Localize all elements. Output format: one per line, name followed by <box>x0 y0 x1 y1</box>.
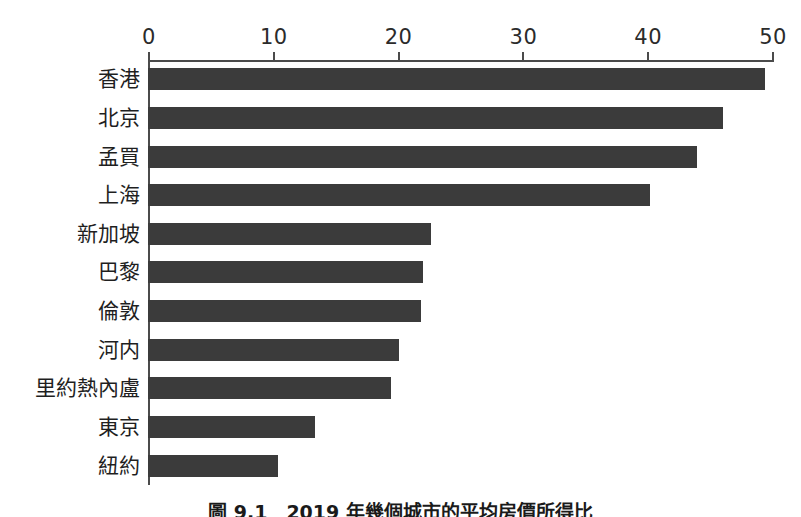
x-tick-label-20: 20 <box>385 25 413 49</box>
category-label-東京: 東京 <box>4 416 140 438</box>
category-label-河内: 河内 <box>4 339 140 361</box>
bar-row: 倫敦 <box>148 292 772 331</box>
category-label-上海: 上海 <box>4 184 140 206</box>
figure-caption: 圖 9.1 2019 年幾個城市的平均房價所得比 <box>0 497 801 517</box>
bar-河内 <box>148 339 399 361</box>
x-tick-label-0: 0 <box>142 25 156 49</box>
bar-上海 <box>148 184 650 206</box>
category-label-北京: 北京 <box>4 107 140 129</box>
bar-新加坡 <box>148 223 431 245</box>
bar-紐約 <box>148 455 278 477</box>
bar-香港 <box>148 68 765 90</box>
bar-里約熱內盧 <box>148 377 391 399</box>
category-label-香港: 香港 <box>4 68 140 90</box>
bar-row: 上海 <box>148 176 772 215</box>
bar-row: 北京 <box>148 99 772 138</box>
bar-row: 紐約 <box>148 446 772 485</box>
x-tick-label-30: 30 <box>510 25 538 49</box>
category-label-倫敦: 倫敦 <box>4 300 140 322</box>
bar-row: 里約熱內盧 <box>148 369 772 408</box>
bar-倫敦 <box>148 300 421 322</box>
x-tick-label-10: 10 <box>260 25 288 49</box>
plot-area: 香港北京孟買上海新加坡巴黎倫敦河内里約熱內盧東京紐約 <box>148 60 772 485</box>
x-tick-50 <box>772 52 774 62</box>
bar-row: 東京 <box>148 408 772 447</box>
bar-北京 <box>148 107 723 129</box>
bar-row: 河内 <box>148 330 772 369</box>
category-label-紐約: 紐約 <box>4 455 140 477</box>
bar-row: 香港 <box>148 60 772 99</box>
bar-row: 新加坡 <box>148 215 772 254</box>
bar-巴黎 <box>148 261 423 283</box>
x-tick-label-50: 50 <box>759 25 787 49</box>
category-label-里約熱內盧: 里約熱內盧 <box>4 377 140 399</box>
bar-孟買 <box>148 146 697 168</box>
horizontal-bar-chart: 01020304050 香港北京孟買上海新加坡巴黎倫敦河内里約熱內盧東京紐約 圖… <box>0 0 801 517</box>
x-tick-label-40: 40 <box>634 25 662 49</box>
category-label-孟買: 孟買 <box>4 146 140 168</box>
bar-row: 巴黎 <box>148 253 772 292</box>
category-label-新加坡: 新加坡 <box>4 223 140 245</box>
bar-東京 <box>148 416 315 438</box>
bar-row: 孟買 <box>148 137 772 176</box>
category-label-巴黎: 巴黎 <box>4 261 140 283</box>
